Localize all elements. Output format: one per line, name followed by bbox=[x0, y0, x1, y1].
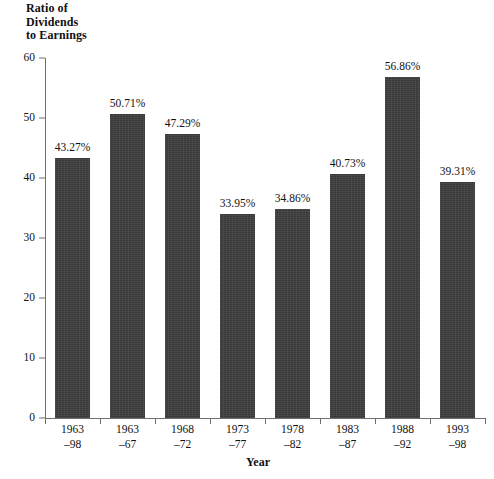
x-category-label-line-1: 1963 bbox=[116, 422, 139, 437]
x-category-label: 1993–98 bbox=[446, 422, 469, 452]
bar bbox=[165, 134, 200, 418]
bar-value-label: 47.29% bbox=[165, 117, 200, 130]
x-category-label-line-1: 1963 bbox=[61, 422, 84, 437]
y-tick-mark bbox=[39, 178, 45, 179]
y-tick-mark bbox=[39, 358, 45, 359]
x-category-label-line-1: 1988 bbox=[391, 422, 414, 437]
x-tick-mark bbox=[155, 418, 156, 424]
x-category-label: 1968–72 bbox=[171, 422, 194, 452]
y-axis-line bbox=[45, 58, 46, 418]
bar bbox=[110, 114, 145, 418]
bar-value-label: 50.71% bbox=[110, 97, 145, 110]
bar-value-label: 33.95% bbox=[220, 197, 255, 210]
x-category-label-line-2: –92 bbox=[391, 437, 414, 452]
x-tick-mark bbox=[100, 418, 101, 424]
y-tick-label: 50 bbox=[0, 110, 35, 125]
x-category-label-line-2: –67 bbox=[116, 437, 139, 452]
x-axis-title: Year bbox=[0, 455, 494, 470]
bar bbox=[440, 182, 475, 418]
x-tick-mark bbox=[45, 418, 46, 424]
x-category-label-line-1: 1983 bbox=[336, 422, 359, 437]
y-tick-label: 30 bbox=[0, 230, 35, 245]
bar bbox=[330, 174, 365, 418]
x-tick-mark bbox=[210, 418, 211, 424]
bar-value-label: 40.73% bbox=[330, 157, 365, 170]
y-tick-label: 0 bbox=[0, 410, 35, 425]
bar-chart: Ratio of Dividends to Earnings 010203040… bbox=[0, 0, 494, 479]
y-tick-mark bbox=[39, 118, 45, 119]
y-tick-label: 10 bbox=[0, 350, 35, 365]
x-category-label-line-2: –82 bbox=[281, 437, 304, 452]
x-category-label: 1963–67 bbox=[116, 422, 139, 452]
x-category-label: 1983–87 bbox=[336, 422, 359, 452]
x-category-label: 1978–82 bbox=[281, 422, 304, 452]
plot-area: 0102030405060 43.27%50.71%47.29%33.95%34… bbox=[45, 58, 485, 418]
x-category-label-line-2: –98 bbox=[446, 437, 469, 452]
x-category-label: 1973–77 bbox=[226, 422, 249, 452]
bar-value-label: 39.31% bbox=[440, 165, 475, 178]
y-tick-label: 20 bbox=[0, 290, 35, 305]
x-category-label: 1988–92 bbox=[391, 422, 414, 452]
x-tick-mark bbox=[375, 418, 376, 424]
y-axis-title-line-1: Ratio of bbox=[26, 2, 87, 16]
x-category-label-line-2: –87 bbox=[336, 437, 359, 452]
y-tick-label: 40 bbox=[0, 170, 35, 185]
x-category-label-line-2: –77 bbox=[226, 437, 249, 452]
x-category-label-line-1: 1978 bbox=[281, 422, 304, 437]
x-category-label-line-1: 1973 bbox=[226, 422, 249, 437]
x-axis-title-label: Year bbox=[246, 455, 270, 469]
bar-value-label: 34.86% bbox=[275, 192, 310, 205]
bar-value-label: 56.86% bbox=[385, 60, 420, 73]
y-tick-mark bbox=[39, 298, 45, 299]
y-axis-title-line-3: to Earnings bbox=[26, 29, 87, 43]
x-tick-mark bbox=[320, 418, 321, 424]
bar bbox=[275, 209, 310, 418]
bar bbox=[55, 158, 90, 418]
bar bbox=[220, 214, 255, 418]
x-category-label-line-2: –72 bbox=[171, 437, 194, 452]
x-tick-mark bbox=[430, 418, 431, 424]
bar-value-label: 43.27% bbox=[55, 141, 90, 154]
x-category-label-line-2: –98 bbox=[61, 437, 84, 452]
x-category-label: 1963–98 bbox=[61, 422, 84, 452]
y-tick-mark bbox=[39, 58, 45, 59]
y-axis-title-line-2: Dividends bbox=[26, 16, 87, 30]
x-tick-mark bbox=[265, 418, 266, 424]
x-category-label-line-1: 1968 bbox=[171, 422, 194, 437]
y-tick-mark bbox=[39, 238, 45, 239]
bar bbox=[385, 77, 420, 418]
x-category-label-line-1: 1993 bbox=[446, 422, 469, 437]
y-axis-title: Ratio of Dividends to Earnings bbox=[26, 2, 87, 43]
x-tick-mark bbox=[485, 418, 486, 424]
y-tick-label: 60 bbox=[0, 50, 35, 65]
